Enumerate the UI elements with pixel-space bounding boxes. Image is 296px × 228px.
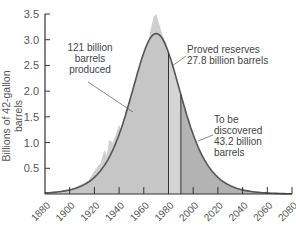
x-tick-label: 1980 <box>152 199 176 223</box>
x-tick-label: 1880 <box>29 199 53 223</box>
y-tick-label: 2.0 <box>24 85 39 97</box>
annotation-line: 27.8 billion barrels <box>187 55 268 66</box>
x-tick-label: 2080 <box>276 199 296 223</box>
x-tick-label: 2000 <box>177 199 201 223</box>
annotation-line: Proved reserves <box>187 44 268 55</box>
annotation-line: discovered <box>214 125 262 136</box>
leader-line <box>172 56 186 66</box>
y-tick-label: 1.0 <box>24 137 39 149</box>
x-tick-label: 2060 <box>251 199 275 223</box>
x-tick-label: 2020 <box>202 199 226 223</box>
y-axis-label: Billions of 42-gallon barrels <box>0 56 24 176</box>
annotation-discover: To be discovered 43.2 billion barrels <box>214 114 262 158</box>
y-tick-label: 1.5 <box>24 111 39 123</box>
leader-line <box>198 135 213 141</box>
annotation-line: barrels <box>214 147 262 158</box>
annotation-line: barrels <box>58 53 122 64</box>
annotation-line: 43.2 billion <box>214 136 262 147</box>
y-tick-label: 2.5 <box>24 59 39 71</box>
hubbert-curve-chart: 0.51.01.52.02.53.03.51880190019201940196… <box>0 0 296 228</box>
x-tick-label: 1900 <box>53 199 77 223</box>
x-tick-label: 1960 <box>128 199 152 223</box>
leader-line <box>88 82 133 112</box>
annotation-line: produced <box>58 64 122 75</box>
x-tick-label: 2040 <box>226 199 250 223</box>
x-tick-label: 1920 <box>78 199 102 223</box>
annotation-reserves: Proved reserves 27.8 billion barrels <box>187 44 268 66</box>
annotation-line: 121 billion <box>58 42 122 53</box>
y-tick-label: 3.5 <box>24 8 39 20</box>
y-tick-label: 3.0 <box>24 34 39 46</box>
annotation-line: To be <box>214 114 262 125</box>
annotation-produced: 121 billion barrels produced <box>58 42 122 75</box>
x-tick-label: 1940 <box>103 199 127 223</box>
y-tick-label: 0.5 <box>24 162 39 174</box>
